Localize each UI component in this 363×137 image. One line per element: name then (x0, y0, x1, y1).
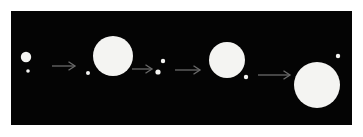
companion-body-circle (336, 54, 340, 58)
stage-group-5 (294, 54, 340, 108)
arrow-icon (132, 65, 152, 73)
primary-body-circle (209, 42, 245, 78)
primary-body-circle (294, 62, 340, 108)
companion-body-circle (26, 69, 30, 73)
companion-body-circle (244, 75, 248, 79)
stage-group-1 (21, 52, 31, 73)
arrow-icon (52, 62, 75, 70)
sequence-canvas (11, 11, 352, 125)
arrow-icon (175, 66, 200, 74)
primary-body-circle (93, 36, 133, 76)
arrow-icon (258, 71, 290, 79)
stage-group-4 (209, 42, 248, 79)
companion-body-circle (155, 69, 160, 74)
companion-body-circle (86, 71, 90, 75)
stage-group-3 (155, 59, 165, 75)
sequence-panel (11, 11, 352, 125)
primary-body-circle (161, 59, 165, 63)
stage-group-2 (86, 36, 133, 76)
primary-body-circle (21, 52, 31, 62)
figure-root (0, 0, 363, 137)
